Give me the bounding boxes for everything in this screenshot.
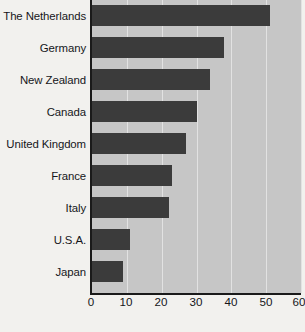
bar-united-kingdom[interactable] — [92, 133, 186, 154]
category-label-italy: Italy — [0, 202, 86, 214]
category-label-the-netherlands: The Netherlands — [0, 10, 86, 22]
xtick-label-0: 0 — [88, 295, 94, 309]
bars-layer — [92, 0, 301, 293]
xtick-label-10: 10 — [120, 295, 133, 309]
category-label-japan: Japan — [0, 266, 86, 278]
bar-canada[interactable] — [92, 101, 197, 122]
category-label-canada: Canada — [0, 106, 86, 118]
xtick-label-50: 50 — [260, 295, 273, 309]
source-caption — [0, 324, 305, 332]
xtick-label-60: 60 — [293, 295, 305, 309]
category-label-usa: U.S.A. — [0, 234, 86, 246]
bar-the-netherlands[interactable] — [92, 5, 270, 26]
category-label-united-kingdom: United Kingdom — [0, 138, 86, 150]
bar-chart: The Netherlands Germany New Zealand Cana… — [0, 0, 305, 332]
category-label-france: France — [0, 170, 86, 182]
bar-france[interactable] — [92, 165, 172, 186]
xtick-label-40: 40 — [225, 295, 238, 309]
category-label-germany: Germany — [0, 42, 86, 54]
gridline-60 — [301, 0, 302, 293]
x-axis: 0 10 20 30 40 50 60 — [0, 295, 305, 313]
bar-japan[interactable] — [92, 261, 123, 282]
xtick-label-20: 20 — [155, 295, 168, 309]
bar-germany[interactable] — [92, 37, 224, 58]
bar-usa[interactable] — [92, 229, 130, 250]
bar-italy[interactable] — [92, 197, 169, 218]
plot-area — [90, 0, 301, 295]
category-axis-labels: The Netherlands Germany New Zealand Cana… — [0, 0, 86, 293]
xtick-label-30: 30 — [190, 295, 203, 309]
bar-new-zealand[interactable] — [92, 69, 210, 90]
category-label-new-zealand: New Zealand — [0, 74, 86, 86]
